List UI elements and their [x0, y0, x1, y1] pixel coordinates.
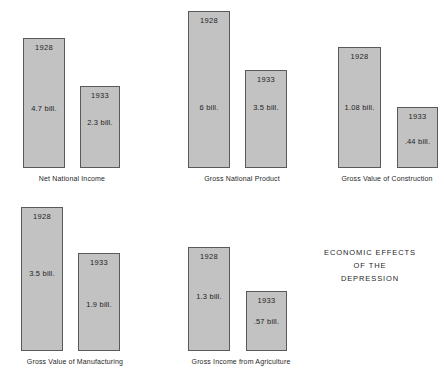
bars-row: 1928 4.7 bill. 1933 2.3 bill. — [18, 30, 126, 168]
bar-year-label: 1928 — [22, 213, 62, 221]
bars-row: 1928 6 bill. 1933 3.5 bill. — [183, 4, 301, 168]
chart-canvas: 1928 4.7 bill. 1933 2.3 bill. Net Nation… — [0, 0, 444, 377]
group-caption: Gross National Product — [183, 175, 301, 182]
bar-year-label: 1928 — [24, 44, 64, 52]
bar-value-label: 6 bill. — [189, 104, 229, 112]
group-caption: Gross Value of Construction — [331, 175, 443, 182]
bar-year-label: 1928 — [189, 17, 229, 25]
bar-1933[interactable]: 1933 .57 bill. — [246, 291, 287, 351]
bar-1933[interactable]: 1933 3.5 bill. — [245, 70, 287, 168]
bar-year-label: 1933 — [247, 297, 286, 305]
bar-1928[interactable]: 1928 3.5 bill. — [21, 207, 63, 351]
bar-value-label: 2.3 bill. — [81, 119, 119, 127]
bar-value-label: .57 bill. — [247, 318, 286, 326]
bar-1928[interactable]: 1928 6 bill. — [188, 11, 230, 168]
bar-1933[interactable]: 1933 2.3 bill. — [80, 86, 120, 168]
group-caption: Gross Income from Agriculture — [180, 358, 302, 365]
chart-title-line-3: DEPRESSION — [296, 272, 444, 285]
bar-group-gross-national-product: 1928 6 bill. 1933 3.5 bill. Gross Nation… — [183, 4, 301, 168]
bar-year-label: 1933 — [246, 76, 286, 84]
bar-1928[interactable]: 1928 1.3 bill. — [188, 247, 230, 351]
bar-value-label: 3.5 bill. — [22, 270, 62, 278]
bar-value-label: 3.5 bill. — [246, 104, 286, 112]
bars-row: 1928 3.5 bill. 1933 1.9 bill. — [16, 200, 134, 351]
bar-group-net-national-income: 1928 4.7 bill. 1933 2.3 bill. Net Nation… — [18, 30, 126, 168]
bar-value-label: 4.7 bill. — [24, 105, 64, 113]
bar-year-label: 1933 — [79, 259, 119, 267]
chart-title: ECONOMIC EFFECTS OF THE DEPRESSION — [296, 246, 444, 285]
bar-year-label: 1933 — [81, 92, 119, 100]
bar-value-label: 1.08 bill. — [339, 104, 380, 112]
bar-value-label: 1.3 bill. — [189, 293, 229, 301]
bar-1928[interactable]: 1928 4.7 bill. — [23, 38, 65, 168]
bar-year-label: 1928 — [339, 53, 380, 61]
bars-row: 1928 1.3 bill. 1933 .57 bill. — [180, 240, 302, 351]
group-caption: Gross Value of Manufacturing — [16, 358, 134, 365]
bars-row: 1928 1.08 bill. 1933 .44 bill. — [331, 40, 443, 168]
bar-group-gross-income-from-agriculture: 1928 1.3 bill. 1933 .57 bill. Gross Inco… — [180, 240, 302, 351]
bar-value-label: 1.9 bill. — [79, 301, 119, 309]
bar-1933[interactable]: 1933 1.9 bill. — [78, 253, 120, 351]
chart-title-line-1: ECONOMIC EFFECTS — [296, 246, 444, 259]
bar-group-gross-value-of-manufacturing: 1928 3.5 bill. 1933 1.9 bill. Gross Valu… — [16, 200, 134, 351]
bar-1933[interactable]: 1933 .44 bill. — [397, 107, 438, 168]
bar-group-gross-value-of-construction: 1928 1.08 bill. 1933 .44 bill. Gross Val… — [331, 40, 443, 168]
bar-year-label: 1933 — [398, 113, 437, 121]
bar-value-label: .44 bill. — [398, 138, 437, 146]
group-caption: Net National Income — [18, 175, 126, 182]
bar-year-label: 1928 — [189, 253, 229, 261]
chart-title-line-2: OF THE — [296, 259, 444, 272]
bar-1928[interactable]: 1928 1.08 bill. — [338, 47, 381, 168]
